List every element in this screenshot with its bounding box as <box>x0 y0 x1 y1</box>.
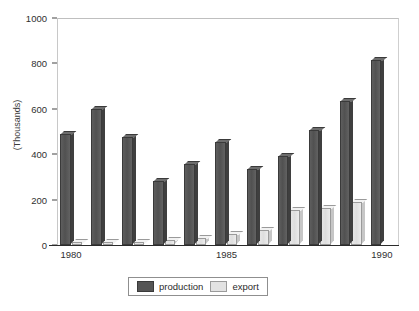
bar-front-face <box>340 101 351 245</box>
bar-side-shadow <box>350 98 353 243</box>
y-tick-label: 400 <box>0 149 47 160</box>
y-axis-title: (Thousands) <box>12 70 22 180</box>
bar-side-shadow <box>362 199 365 243</box>
bar-group <box>244 18 275 245</box>
export-bar[interactable] <box>165 240 176 245</box>
bar-side-shadow <box>393 180 396 244</box>
bar-front-face <box>215 142 226 245</box>
bar-side-shadow <box>195 162 198 244</box>
bar-front-face <box>278 156 289 245</box>
bar-group <box>57 18 88 245</box>
bar-side-shadow <box>226 139 229 244</box>
legend-item-export[interactable]: export <box>210 281 258 292</box>
x-tick-label: 1980 <box>60 249 81 260</box>
production-bar[interactable] <box>60 134 71 245</box>
x-tick-label: 1985 <box>216 249 237 260</box>
production-bar[interactable] <box>371 60 382 245</box>
bar-front-face <box>184 164 195 245</box>
production-bar[interactable] <box>153 181 164 245</box>
bar-group <box>181 18 212 245</box>
bar-front-face <box>103 242 114 245</box>
bar-side-shadow <box>71 131 74 244</box>
bar-group <box>368 18 399 245</box>
bar-front-face <box>122 137 133 245</box>
bar-side-shadow <box>257 166 260 243</box>
bar-side-shadow <box>102 106 105 244</box>
bar-front-face <box>371 60 382 245</box>
bar-front-face <box>60 134 71 245</box>
chart-legend: production export <box>128 277 268 296</box>
production-swatch-icon <box>137 281 154 292</box>
bar-group <box>306 18 337 245</box>
bar-front-face <box>247 169 258 245</box>
legend-label-production: production <box>159 281 203 292</box>
bar-group <box>119 18 150 245</box>
bar-group <box>88 18 119 245</box>
legend-label-export: export <box>232 281 258 292</box>
bar-side-shadow <box>164 179 167 244</box>
export-bar[interactable] <box>134 242 145 245</box>
bar-side-shadow <box>133 135 136 244</box>
production-bar[interactable] <box>247 169 258 245</box>
bar-side-shadow <box>331 205 334 244</box>
bar-side-shadow <box>319 128 322 244</box>
y-tick-label: 1000 <box>0 13 47 24</box>
bar-top-face <box>382 180 398 184</box>
bar-group <box>212 18 243 245</box>
production-bar[interactable] <box>278 156 289 245</box>
production-bar[interactable] <box>122 137 133 245</box>
production-bar[interactable] <box>215 142 226 245</box>
bar-front-face <box>134 242 145 245</box>
y-tick-label: 0 <box>0 240 47 251</box>
y-tick-label: 800 <box>0 58 47 69</box>
production-bar[interactable] <box>91 109 102 245</box>
bar-front-face <box>165 240 176 245</box>
x-axis-line <box>49 245 399 246</box>
bar-group <box>275 18 306 245</box>
production-bar[interactable] <box>340 101 351 245</box>
export-bar[interactable] <box>72 242 83 245</box>
bar-front-face <box>72 242 83 245</box>
production-bar[interactable] <box>184 164 195 245</box>
y-tick-label: 600 <box>0 103 47 114</box>
legend-item-production[interactable]: production <box>137 281 203 292</box>
x-tick-label: 1990 <box>371 249 392 260</box>
bar-group <box>150 18 181 245</box>
y-tick-label: 200 <box>0 194 47 205</box>
bar-group <box>337 18 368 245</box>
bar-front-face <box>91 109 102 245</box>
export-bar[interactable] <box>103 242 114 245</box>
bar-side-shadow <box>381 57 384 243</box>
bar-side-shadow <box>288 154 291 244</box>
production-bar[interactable] <box>309 130 320 245</box>
bar-chart: (Thousands) 02004006008001000 1980198519… <box>0 0 419 311</box>
bar-front-face <box>153 181 164 245</box>
bar-side-shadow <box>300 207 303 244</box>
bar-front-face <box>309 130 320 245</box>
export-swatch-icon <box>210 281 227 292</box>
bar-series-container <box>57 18 399 245</box>
